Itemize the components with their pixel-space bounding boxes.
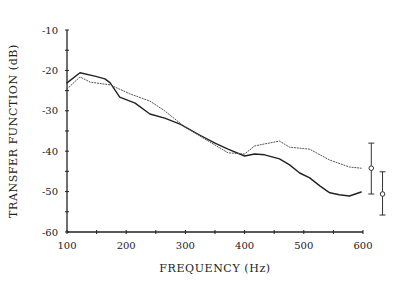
y-tick-label: -20 bbox=[42, 65, 58, 76]
x-tick-label: 400 bbox=[235, 240, 254, 251]
series-group bbox=[67, 73, 361, 196]
y-axis-title: TRANSFER FUNCTION (dB) bbox=[7, 44, 20, 218]
transfer-function-chart: -10-20-30-40-50-60100200300400500600 FRE… bbox=[0, 0, 403, 287]
axes: -10-20-30-40-50-60100200300400500600 bbox=[42, 25, 373, 252]
x-tick-label: 100 bbox=[57, 240, 76, 251]
dotted-series-line bbox=[67, 77, 361, 168]
solid-series-line bbox=[67, 73, 361, 196]
plot-area: -10-20-30-40-50-60100200300400500600 FRE… bbox=[0, 0, 403, 287]
error-bars bbox=[368, 143, 385, 215]
x-axis-title: FREQUENCY (Hz) bbox=[159, 262, 270, 275]
y-tick-label: -50 bbox=[42, 186, 58, 197]
y-tick-label: -60 bbox=[42, 227, 58, 238]
x-tick-label: 300 bbox=[176, 240, 195, 251]
y-tick-label: -40 bbox=[42, 146, 58, 157]
error-bar-center-marker bbox=[369, 166, 374, 171]
x-tick-label: 200 bbox=[117, 240, 136, 251]
y-tick-label: -30 bbox=[42, 105, 58, 116]
y-tick-label: -10 bbox=[42, 25, 58, 36]
error-bar-center-marker bbox=[380, 192, 385, 197]
x-tick-label: 600 bbox=[353, 240, 372, 251]
x-tick-label: 500 bbox=[294, 240, 313, 251]
